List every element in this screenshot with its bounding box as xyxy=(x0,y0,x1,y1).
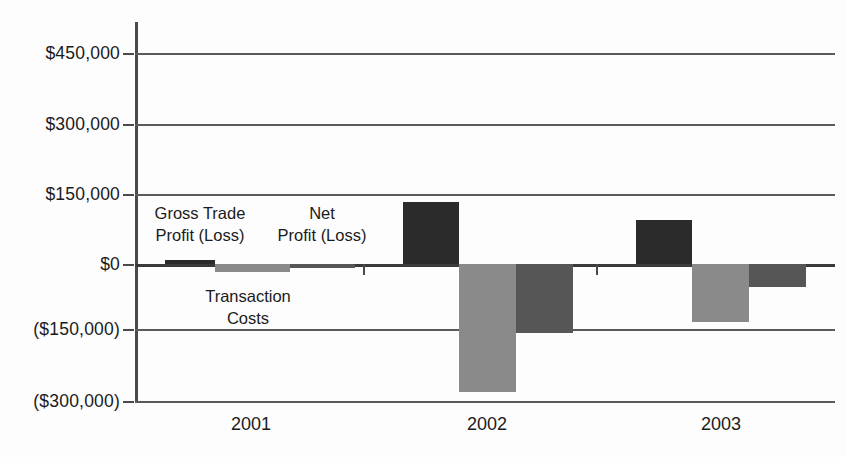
y-axis-label-450000: $450,000 xyxy=(45,43,120,64)
bar-2001-gross-trade-profit xyxy=(165,260,215,264)
x-axis-label-2003: 2003 xyxy=(701,414,741,435)
annotation-transaction-costs: Transaction Costs xyxy=(205,286,291,330)
gridline-300000 xyxy=(135,124,835,126)
bar-2002-gross-trade-profit xyxy=(403,202,459,264)
y-axis-label-0: $0 xyxy=(100,254,120,275)
y-axis-tick-150000 xyxy=(123,194,134,196)
y-axis-labels: $450,000 $300,000 $150,000 $0 ($150,000)… xyxy=(0,26,120,401)
gridline-150000 xyxy=(135,194,835,196)
y-axis-tick-neg150000 xyxy=(123,329,134,331)
bar-2003-gross-trade-profit xyxy=(636,220,692,264)
y-axis-tick-300000 xyxy=(123,124,134,126)
bar-2002-net-profit xyxy=(516,264,573,333)
annotation-gross-trade-profit-line1: Gross Trade xyxy=(155,203,246,225)
y-axis-tick-450000 xyxy=(123,53,134,55)
annotation-gross-trade-profit-line2: Profit (Loss) xyxy=(155,225,246,247)
bar-chart: $450,000 $300,000 $150,000 $0 ($150,000)… xyxy=(0,0,846,457)
x-axis-label-2001: 2001 xyxy=(231,414,271,435)
category-separator-2002-2003 xyxy=(596,264,598,275)
gridline-neg300000 xyxy=(135,401,835,403)
y-axis-label-150000: $150,000 xyxy=(45,184,120,205)
annotation-net-profit: Net Profit (Loss) xyxy=(278,203,367,247)
bar-2001-transaction-costs xyxy=(215,264,290,272)
annotation-transaction-costs-line2: Costs xyxy=(205,308,291,330)
annotation-net-profit-line1: Net xyxy=(278,203,367,225)
annotation-transaction-costs-line1: Transaction xyxy=(205,286,291,308)
y-axis-tick-neg300000 xyxy=(123,401,134,403)
annotation-net-profit-line2: Profit (Loss) xyxy=(278,225,367,247)
annotation-gross-trade-profit: Gross Trade Profit (Loss) xyxy=(155,203,246,247)
bar-2003-net-profit xyxy=(749,264,806,287)
bar-2003-transaction-costs xyxy=(692,264,749,322)
y-axis-label-300000: $300,000 xyxy=(45,114,120,135)
category-separator-2001-2002 xyxy=(363,264,365,275)
gridline-450000 xyxy=(135,53,835,55)
bar-2002-transaction-costs xyxy=(459,264,516,392)
y-axis-label-neg300000: ($300,000) xyxy=(33,391,120,412)
y-axis-label-neg150000: ($150,000) xyxy=(33,319,120,340)
y-axis-tick-0 xyxy=(123,264,134,266)
x-axis-label-2002: 2002 xyxy=(467,414,507,435)
bar-2001-net-profit xyxy=(290,264,355,268)
